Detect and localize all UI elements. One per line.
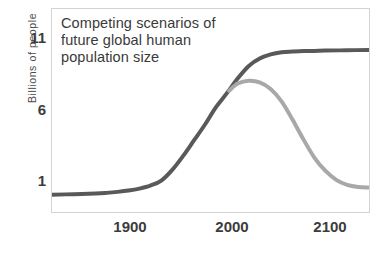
x-tick-label-1900: 1900 bbox=[95, 219, 165, 234]
plot-area: Competing scenarios of future global hum… bbox=[51, 8, 370, 213]
line-continued-growth-scenario bbox=[52, 50, 369, 195]
x-tick-label-2000: 2000 bbox=[197, 219, 267, 234]
chart-title: Competing scenarios of future global hum… bbox=[61, 15, 216, 66]
population-scenarios-chart: Billions of people 11 6 1 1900 2000 2100… bbox=[0, 0, 385, 255]
y-tick-label-11: 11 bbox=[6, 30, 46, 45]
line-decline-scenario bbox=[229, 81, 369, 188]
x-tick-label-2100: 2100 bbox=[295, 219, 365, 234]
y-tick-label-6: 6 bbox=[6, 102, 46, 117]
y-axis-tick-labels: 11 6 1 bbox=[0, 0, 46, 255]
y-tick-label-1: 1 bbox=[6, 173, 46, 188]
